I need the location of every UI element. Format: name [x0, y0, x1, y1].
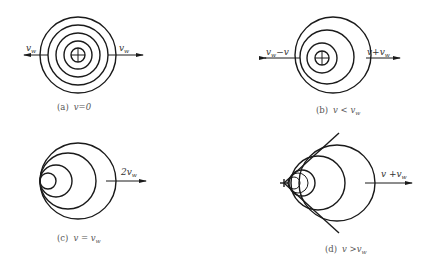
right-arrow-label: vw: [119, 43, 130, 54]
right-arrow-label: v +vw: [381, 169, 408, 180]
wavefront-circle: [40, 173, 56, 189]
source-circle-plus-icon: [71, 48, 85, 62]
panel-b: vw−v v+vw (b)v < vw: [264, 17, 400, 116]
right-arrow-label: v+vw: [367, 47, 391, 58]
wavefront-circle: [40, 153, 96, 209]
caption-c: (c)v = vw: [57, 233, 102, 244]
wavefront-circle: [295, 17, 371, 93]
mach-cone-lower-line: [284, 183, 339, 233]
panel-d: v +vw (d)v >vw: [280, 133, 412, 255]
caption-d: (d)v >vw: [325, 244, 368, 255]
wavefront-circle: [288, 177, 300, 189]
source-circle-plus-icon: [315, 51, 329, 65]
wavefront-circle: [300, 30, 354, 84]
left-arrow-label: vw−v: [266, 47, 289, 58]
left-arrow-label: vw: [26, 43, 37, 54]
panel-c: 2vw (c)v = vw: [40, 143, 146, 244]
caption-b: (b)v < vw: [316, 105, 361, 116]
panel-a: vw vw (a)v=0: [24, 17, 143, 112]
right-arrow-label: 2vw: [120, 167, 138, 178]
mach-cone-upper-line: [284, 133, 339, 183]
doppler-wavefront-diagram: vw vw (a)v=0 vw−v v+vw (b)v < vw 2vw (c)…: [0, 0, 429, 263]
caption-a: (a)v=0: [57, 102, 92, 112]
